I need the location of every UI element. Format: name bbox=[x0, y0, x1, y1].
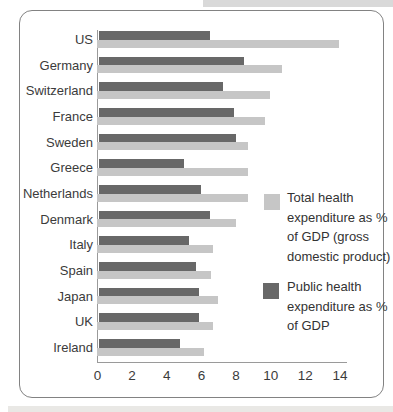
country-label: Denmark bbox=[0, 211, 93, 228]
public-expenditure-bar bbox=[99, 57, 244, 66]
bar-row-germany: Germany bbox=[0, 57, 393, 83]
total-expenditure-bar bbox=[97, 271, 211, 279]
country-label: US bbox=[0, 31, 93, 48]
x-tick-label: 10 bbox=[263, 368, 278, 383]
total-expenditure-bar bbox=[97, 348, 204, 356]
country-label: Italy bbox=[0, 236, 93, 253]
bar-row-spain: Spain bbox=[0, 262, 393, 288]
bar-row-ireland: Ireland bbox=[0, 339, 393, 365]
total-expenditure-bar bbox=[97, 322, 213, 330]
total-expenditure-bar bbox=[97, 168, 248, 176]
bar-row-switzerland: Switzerland bbox=[0, 82, 393, 108]
public-expenditure-bar bbox=[99, 134, 236, 143]
scanned-figure-page: USGermanySwitzerlandFranceSwedenGreeceNe… bbox=[0, 0, 393, 412]
public-expenditure-bar bbox=[99, 288, 199, 297]
bar-rows-container: USGermanySwitzerlandFranceSwedenGreeceNe… bbox=[0, 31, 393, 366]
total-expenditure-bar bbox=[97, 142, 248, 150]
public-expenditure-bar bbox=[99, 159, 184, 168]
total-expenditure-bar bbox=[97, 219, 236, 227]
country-label: Japan bbox=[0, 288, 93, 305]
public-expenditure-bar bbox=[99, 262, 196, 271]
country-label: Switzerland bbox=[0, 82, 93, 99]
x-tick-label: 8 bbox=[232, 368, 240, 383]
bar-row-netherlands: Netherlands bbox=[0, 185, 393, 211]
bar-row-italy: Italy bbox=[0, 236, 393, 262]
bar-row-us: US bbox=[0, 31, 393, 57]
total-expenditure-bar bbox=[97, 296, 218, 304]
total-expenditure-bar bbox=[97, 194, 248, 202]
scan-edge-band-top bbox=[203, 0, 393, 7]
public-expenditure-bar bbox=[99, 313, 199, 322]
scan-edge-band-bottom bbox=[8, 406, 393, 412]
total-expenditure-bar bbox=[97, 117, 265, 125]
country-label: Germany bbox=[0, 57, 93, 74]
public-expenditure-bar bbox=[99, 211, 210, 220]
x-tick-label: 4 bbox=[163, 368, 171, 383]
bar-row-france: France bbox=[0, 108, 393, 134]
total-expenditure-bar bbox=[97, 40, 339, 48]
public-expenditure-bar bbox=[99, 108, 234, 117]
public-expenditure-bar bbox=[99, 339, 180, 348]
bar-row-uk: UK bbox=[0, 313, 393, 339]
bar-row-denmark: Denmark bbox=[0, 211, 393, 237]
country-label: UK bbox=[0, 313, 93, 330]
bar-row-greece: Greece bbox=[0, 159, 393, 185]
country-label: Netherlands bbox=[0, 185, 93, 202]
country-label: France bbox=[0, 108, 93, 125]
public-expenditure-bar bbox=[99, 236, 189, 245]
total-expenditure-bar bbox=[97, 91, 270, 99]
country-label: Greece bbox=[0, 159, 93, 176]
bar-row-japan: Japan bbox=[0, 288, 393, 314]
x-tick-label: 0 bbox=[94, 368, 102, 383]
x-tick-label: 2 bbox=[128, 368, 136, 383]
x-tick-label: 6 bbox=[198, 368, 206, 383]
bar-row-sweden: Sweden bbox=[0, 134, 393, 160]
x-tick-label: 14 bbox=[332, 368, 347, 383]
country-label: Ireland bbox=[0, 339, 93, 356]
country-label: Sweden bbox=[0, 134, 93, 151]
x-axis-tick-labels: 02468101214 bbox=[0, 368, 393, 384]
public-expenditure-bar bbox=[99, 185, 201, 194]
public-expenditure-bar bbox=[99, 31, 210, 40]
country-label: Spain bbox=[0, 262, 93, 279]
public-expenditure-bar bbox=[99, 82, 223, 91]
total-expenditure-bar bbox=[97, 245, 213, 253]
x-tick-label: 12 bbox=[298, 368, 313, 383]
total-expenditure-bar bbox=[97, 65, 282, 73]
